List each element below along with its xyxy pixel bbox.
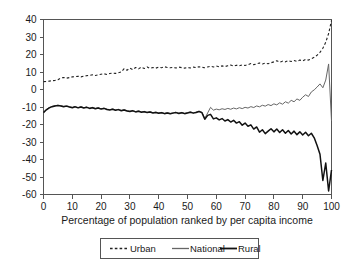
data-series-group xyxy=(44,20,332,191)
x-tick-label: 90 xyxy=(297,201,309,212)
x-tick-label: 40 xyxy=(153,201,165,212)
y-tick-label: 40 xyxy=(25,14,37,25)
x-tick-label: 70 xyxy=(240,201,252,212)
y-tick-label: -20 xyxy=(22,119,37,130)
x-tick-label: 60 xyxy=(211,201,223,212)
x-tick-label: 10 xyxy=(67,201,79,212)
y-axis-ticks: 403020100-10-20-30-40-50-60 xyxy=(22,14,43,200)
x-tick-label: 0 xyxy=(41,201,47,212)
line-chart: 403020100-10-20-30-40-50-60 010203040506… xyxy=(0,0,349,263)
legend-label-national: National xyxy=(190,243,225,254)
x-axis-title: Percentage of population ranked by per c… xyxy=(61,214,313,226)
y-tick-label: 0 xyxy=(31,84,37,95)
x-tick-label: 50 xyxy=(182,201,194,212)
y-tick-label: -50 xyxy=(22,172,37,183)
y-tick-label: 20 xyxy=(25,49,37,60)
series-line-urban xyxy=(44,20,332,81)
y-tick-label: 10 xyxy=(25,67,37,78)
x-axis-ticks: 0102030405060708090100 xyxy=(41,195,341,212)
series-line-rural xyxy=(44,106,332,191)
x-tick-label: 80 xyxy=(268,201,280,212)
legend-label-rural: Rural xyxy=(238,243,261,254)
x-tick-label: 100 xyxy=(323,201,340,212)
x-tick-label: 30 xyxy=(124,201,136,212)
y-tick-label: 30 xyxy=(25,32,37,43)
chart-screenshot: 403020100-10-20-30-40-50-60 010203040506… xyxy=(0,0,349,263)
y-tick-label: -40 xyxy=(22,154,37,165)
legend-label-urban: Urban xyxy=(130,243,156,254)
y-tick-label: -60 xyxy=(22,189,37,200)
legend: UrbanNationalRural xyxy=(101,239,261,259)
x-tick-label: 20 xyxy=(96,201,108,212)
y-tick-label: -10 xyxy=(22,102,37,113)
y-tick-label: -30 xyxy=(22,137,37,148)
